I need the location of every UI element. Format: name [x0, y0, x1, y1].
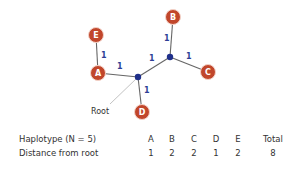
edge-weight-root-j2: 1: [149, 54, 155, 63]
table-distance-row: Distance from root 1 2 2 1 2 8: [0, 148, 300, 160]
value-a: 1: [141, 148, 161, 158]
col-e: E: [228, 134, 248, 144]
table-header-row: Haplotype (N = 5) A B C D E Total: [0, 134, 300, 146]
node-a-label: A: [95, 69, 102, 78]
col-a: A: [141, 134, 161, 144]
distance-row-label: Distance from root: [19, 148, 98, 158]
root-junction: [135, 74, 141, 80]
root-pointer-line: [110, 78, 137, 104]
node-b-label: B: [170, 13, 176, 22]
node-a: A: [91, 66, 106, 81]
node-c: C: [201, 65, 216, 80]
value-b: 2: [162, 148, 182, 158]
node-c-label: C: [205, 68, 211, 77]
col-c: C: [184, 134, 204, 144]
node-d: D: [135, 105, 150, 120]
haplotype-diagram: Root 1 1 1 1 1 1 A B C D E: [0, 0, 300, 169]
node-e-label: E: [93, 31, 98, 40]
value-c: 2: [184, 148, 204, 158]
haplotype-header: Haplotype (N = 5): [19, 134, 96, 144]
value-e: 2: [228, 148, 248, 158]
value-d: 1: [206, 148, 226, 158]
node-e: E: [89, 28, 104, 43]
edge-weight-a-root: 1: [117, 62, 123, 71]
node-b: B: [166, 10, 181, 25]
node-d-label: D: [139, 108, 146, 117]
edge-weight-j2-c: 1: [186, 52, 192, 61]
edge-weight-j2-b: 1: [164, 34, 170, 43]
col-total: Total: [258, 134, 288, 144]
edge-weight-e-a: 1: [101, 51, 107, 60]
junction-node: [167, 54, 173, 60]
col-d: D: [206, 134, 226, 144]
col-b: B: [162, 134, 182, 144]
haplotype-tree: Root 1 1 1 1 1 1 A B C D E: [0, 0, 300, 125]
root-label: Root: [91, 107, 109, 116]
edge-weight-root-d: 1: [144, 86, 150, 95]
edges: [96, 17, 208, 112]
value-total: 8: [258, 148, 288, 158]
